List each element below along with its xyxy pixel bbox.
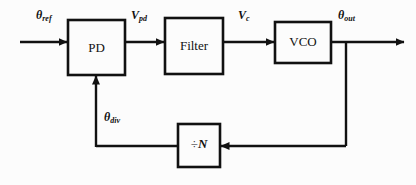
pd-block-label: PD bbox=[68, 40, 125, 56]
divider-variable-n: N bbox=[198, 136, 207, 151]
signal-label-theta-out: θout bbox=[338, 8, 355, 23]
signal-label-theta-div: θdiv bbox=[104, 110, 120, 125]
theta-out-sub: out bbox=[344, 14, 355, 23]
v-c-sub: c bbox=[246, 14, 250, 23]
pll-block-diagram: PD Filter VCO ÷N θref Vpd Vc θout θdiv bbox=[0, 0, 416, 185]
diagram-canvas bbox=[0, 0, 416, 185]
vco-block-label: VCO bbox=[275, 34, 331, 50]
signal-label-v-pd: Vpd bbox=[131, 8, 147, 23]
signal-label-theta-ref: θref bbox=[36, 8, 52, 23]
v-pd-base: V bbox=[131, 8, 139, 22]
divide-symbol: ÷ bbox=[191, 136, 198, 151]
theta-ref-sub: ref bbox=[42, 14, 51, 23]
theta-div-sub: div bbox=[110, 116, 120, 125]
signal-label-v-c: Vc bbox=[238, 8, 250, 23]
divider-block-label: ÷N bbox=[178, 136, 220, 152]
filter-block-label: Filter bbox=[165, 38, 223, 54]
v-c-base: V bbox=[238, 8, 246, 22]
v-pd-sub: pd bbox=[139, 14, 147, 23]
